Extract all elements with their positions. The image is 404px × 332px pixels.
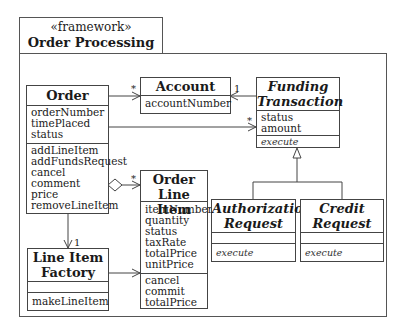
mult-order-funding: * xyxy=(247,116,252,126)
class-authorization-request[interactable]: Authorization Request execute xyxy=(211,199,296,262)
class-line-item-factory[interactable]: Line Item Factory makeLineItem xyxy=(27,248,109,311)
class-funding-transaction[interactable]: Funding Transaction status amount execut… xyxy=(256,77,340,148)
attribute: accountNumber xyxy=(141,98,230,109)
class-name: Authorization Request xyxy=(212,201,295,231)
mult-order-account: * xyxy=(131,84,136,94)
aggregation-diamond xyxy=(108,179,122,191)
class-name: Credit Request xyxy=(301,201,383,231)
class-credit-request[interactable]: Credit Request execute xyxy=(300,199,384,262)
mult-order-factory: 1 xyxy=(74,238,80,248)
mult-order-lineitem: * xyxy=(131,174,136,184)
generalization-triangle xyxy=(293,148,301,158)
operation: execute xyxy=(257,136,339,147)
class-name: Line Item Factory xyxy=(28,250,108,280)
class-name: Funding Transaction xyxy=(257,79,339,109)
class-order-line-item[interactable]: Order Line Item itemNumber quantity stat… xyxy=(140,170,208,309)
operation: totalPrice xyxy=(141,297,207,308)
operation: removeLineItem xyxy=(27,200,108,211)
operation: execute xyxy=(212,247,295,258)
operation: execute xyxy=(301,247,383,258)
mult-funding-account: 1 xyxy=(234,84,240,94)
operation: makeLineItem xyxy=(28,296,108,307)
class-name: Account xyxy=(141,79,230,94)
attribute: unitPrice xyxy=(141,259,207,270)
class-name: Order xyxy=(27,88,108,103)
attribute: amount xyxy=(257,123,339,134)
class-account[interactable]: Account accountNumber xyxy=(140,77,231,114)
attribute: status xyxy=(27,129,108,140)
class-order[interactable]: Order orderNumber timePlaced status addL… xyxy=(26,85,109,214)
